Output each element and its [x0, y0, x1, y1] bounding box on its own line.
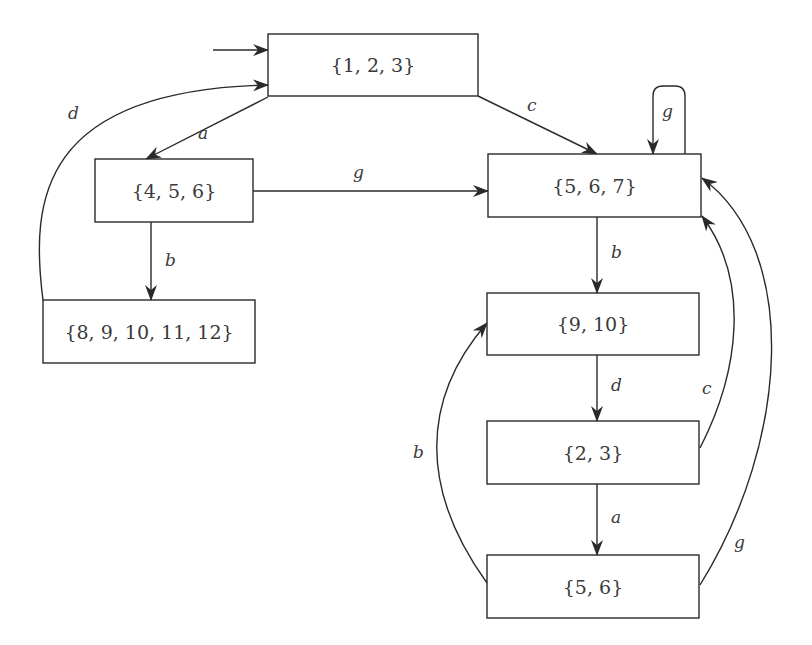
state-node-n123: {1, 2, 3}: [268, 34, 478, 96]
state-node-n89101112: {8, 9, 10, 11, 12}: [43, 300, 255, 363]
edge-e-567-910-b: b: [597, 217, 622, 293]
edge-label: a: [198, 123, 208, 143]
edge-label: b: [611, 242, 622, 262]
edge-label: b: [413, 442, 424, 462]
edge-label: d: [611, 375, 622, 395]
state-node-n56: {5, 6}: [487, 555, 699, 618]
state-label: {4, 5, 6}: [132, 180, 217, 202]
edge-e-23-56-a: a: [597, 484, 621, 555]
edge-label: c: [527, 95, 537, 115]
edge-e-456-567-g: g: [253, 162, 488, 191]
edge-label: g: [662, 101, 673, 121]
state-node-n567: {5, 6, 7}: [488, 154, 701, 217]
edge-label: a: [611, 507, 621, 527]
edge-e-123-567-c: c: [478, 95, 597, 154]
state-label: {1, 2, 3}: [331, 54, 416, 76]
edge-e-56-910-b: b: [413, 323, 487, 583]
state-node-n23: {2, 3}: [487, 421, 699, 484]
edge-e-23-567-c: c: [700, 216, 734, 448]
edge-arrow: [478, 96, 597, 154]
state-node-n910: {9, 10}: [487, 293, 699, 355]
state-label: {5, 6}: [563, 576, 623, 598]
edge-label: c: [702, 378, 712, 398]
edge-label: d: [68, 103, 79, 123]
nodes-layer: {1, 2, 3}{4, 5, 6}{5, 6, 7}{8, 9, 10, 11…: [43, 34, 701, 618]
edge-e-123-456-a: a: [146, 97, 268, 159]
edge-e-567-567-g: g: [653, 86, 685, 154]
edge-arrow: [437, 323, 487, 583]
state-label: {9, 10}: [557, 313, 630, 335]
edge-arrow: [700, 216, 734, 448]
state-label: {2, 3}: [563, 442, 623, 464]
state-diagram: acgbdgbdacgb {1, 2, 3}{4, 5, 6}{5, 6, 7}…: [0, 0, 812, 645]
edge-label: b: [165, 250, 176, 270]
edge-label: g: [353, 162, 364, 182]
edge-e-456-89101112-b: b: [151, 222, 176, 300]
edge-label: g: [734, 532, 745, 552]
state-label: {8, 9, 10, 11, 12}: [64, 321, 233, 343]
edge-e-910-23-d: d: [597, 355, 622, 421]
state-node-n456: {4, 5, 6}: [95, 159, 253, 222]
state-label: {5, 6, 7}: [552, 175, 637, 197]
